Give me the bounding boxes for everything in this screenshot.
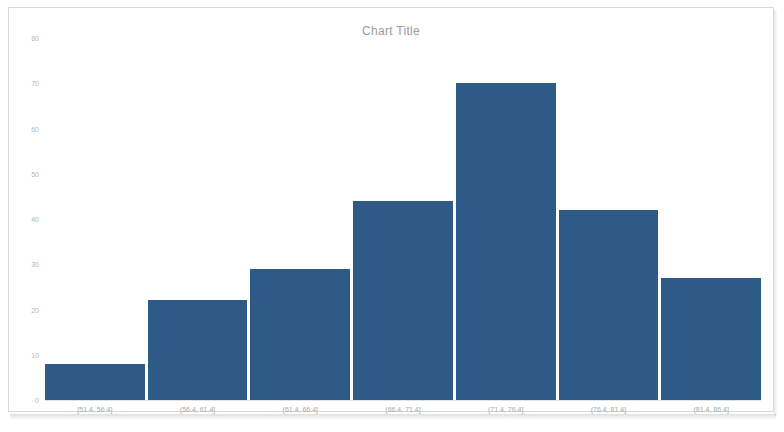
x-axis-tick-labels: [51.4, 56.4](56.4, 61.4](61.4, 66.4](66.… [45, 406, 761, 413]
y-axis-tick-label: 0 [35, 397, 39, 404]
bar-cell [250, 38, 350, 400]
y-axis-tick-label: 10 [31, 351, 39, 358]
bar[interactable] [661, 278, 761, 400]
y-axis-tick-label: 30 [31, 261, 39, 268]
y-axis-tick-label: 60 [31, 125, 39, 132]
x-axis-tick-label: (56.4, 61.4] [148, 406, 248, 413]
y-axis-tick-label: 50 [31, 170, 39, 177]
bar-cell [661, 38, 761, 400]
chart-title: Chart Title [9, 24, 773, 38]
bar[interactable] [456, 83, 556, 400]
y-axis-tick-label: 80 [31, 35, 39, 42]
y-axis-tick-label: 70 [31, 80, 39, 87]
x-axis-tick-label: (61.4, 66.4] [250, 406, 350, 413]
x-axis-line [45, 400, 761, 401]
panel-shadow-right [774, 10, 778, 416]
chart-panel: Chart Title 01020304050607080 [51.4, 56.… [8, 7, 774, 412]
bar[interactable] [148, 300, 248, 400]
x-axis-tick-label: (76.4, 81.4] [559, 406, 659, 413]
plot-area: 01020304050607080 [45, 38, 761, 400]
bar[interactable] [250, 269, 350, 400]
bar-cell [148, 38, 248, 400]
panel-shadow-bottom [10, 414, 776, 420]
bar[interactable] [45, 364, 145, 400]
x-axis-tick-label: (71.4, 76.4] [456, 406, 556, 413]
bar-series [45, 38, 761, 400]
x-axis-tick-label: [51.4, 56.4] [45, 406, 145, 413]
x-axis-tick-label: (66.4, 71.4] [353, 406, 453, 413]
bar[interactable] [353, 201, 453, 400]
bar[interactable] [559, 210, 659, 400]
x-axis-tick-label: (81.4, 86.4] [661, 406, 761, 413]
bar-cell [456, 38, 556, 400]
y-axis-tick-label: 20 [31, 306, 39, 313]
bar-cell [353, 38, 453, 400]
y-axis-tick-label: 40 [31, 216, 39, 223]
bar-cell [45, 38, 145, 400]
bar-cell [559, 38, 659, 400]
